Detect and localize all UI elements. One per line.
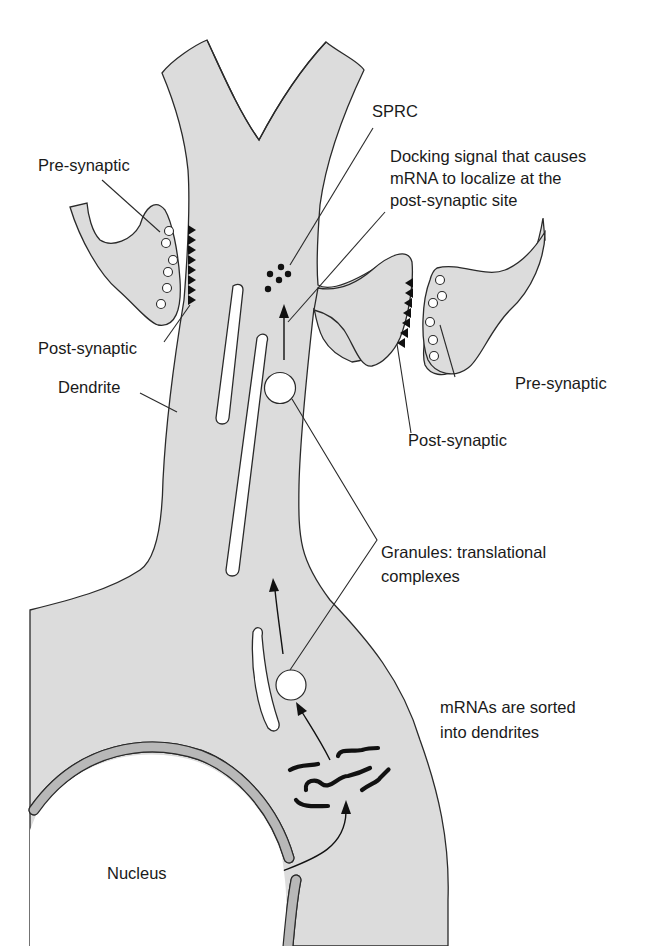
granule-lower — [276, 670, 306, 700]
label-granules: Granules: translational complexes — [381, 540, 546, 588]
label-pre-synaptic-right: Pre-synaptic — [515, 373, 607, 393]
label-pre-synaptic-left: Pre-synaptic — [38, 155, 130, 175]
label-nucleus: Nucleus — [107, 863, 167, 883]
label-post-synaptic-right: Post-synaptic — [408, 430, 507, 450]
label-post-synaptic-left: Post-synaptic — [38, 338, 137, 358]
label-sprc: SPRC — [372, 101, 418, 121]
granule-upper — [265, 373, 296, 404]
presynaptic-terminal-right-body — [423, 232, 545, 374]
label-docking-signal: Docking signal that causes mRNA to local… — [390, 145, 586, 211]
dendrite-diagram — [0, 0, 666, 946]
label-mrnas-sorted: mRNAs are sorted into dendrites — [440, 695, 576, 745]
label-dendrite: Dendrite — [58, 377, 120, 397]
